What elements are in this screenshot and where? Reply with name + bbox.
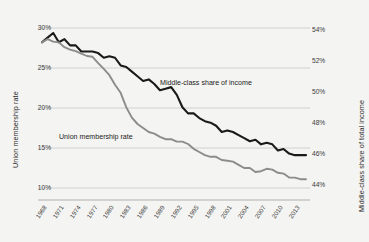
series-annotation-middle-class: Middle-class share of income [160, 79, 252, 87]
y-tick-left: 10% [38, 184, 51, 191]
y-tick-right: 50% [312, 88, 325, 95]
y-tick-right: 52% [312, 57, 325, 64]
y-tick-left: 20% [38, 104, 51, 111]
y-tick-left: 25% [38, 64, 51, 71]
y-tick-left: 15% [38, 144, 51, 151]
y-axis-right-title: Middle-class share of total income [357, 100, 366, 212]
y-tick-right: 46% [312, 150, 325, 157]
series-line-union [42, 39, 306, 179]
y-tick-left: 30% [38, 24, 51, 31]
y-tick-right: 54% [312, 26, 325, 33]
series-path-group [42, 33, 306, 179]
series-annotation-union: Union membership rate [59, 133, 133, 141]
y-tick-right: 48% [312, 119, 325, 126]
y-tick-right: 44% [312, 181, 325, 188]
chart-container: 30%25%20%15%10% 54%52%50%48%46%44% 19681… [0, 0, 369, 242]
y-axis-left-title: Union membership rate [11, 91, 20, 168]
